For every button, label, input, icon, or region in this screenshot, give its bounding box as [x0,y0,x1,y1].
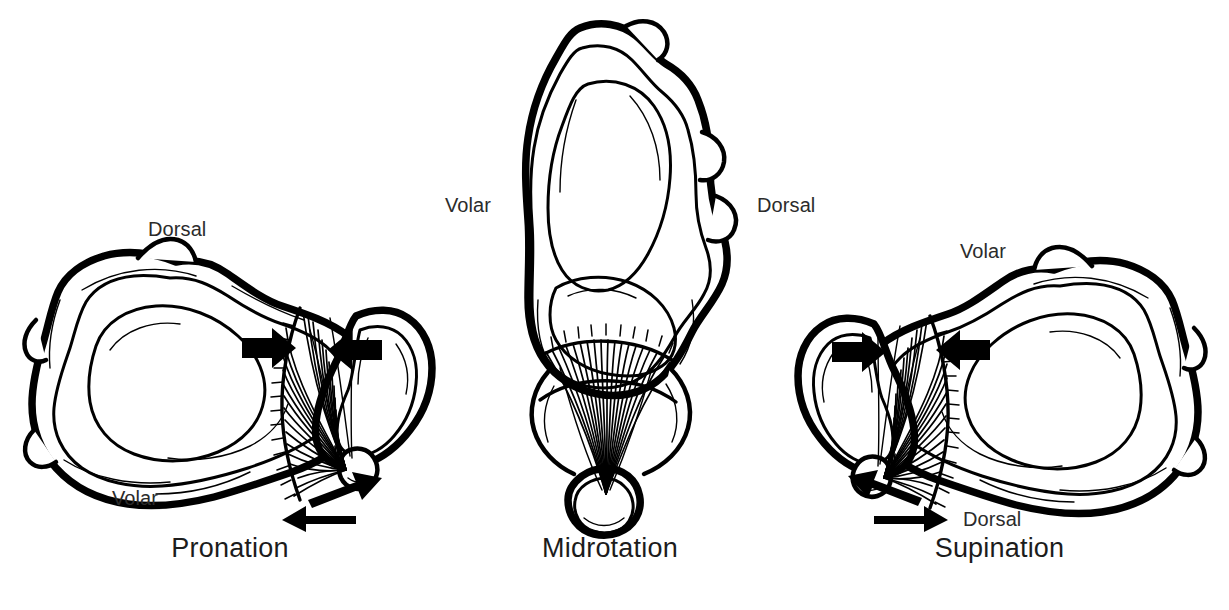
translation-arrow-forward [874,506,948,532]
panel-supination: Volar Dorsal Supination [770,0,1229,610]
figure-bottom-caption [118,596,818,610]
label-pronation-dorsal: Dorsal [148,218,206,241]
figure-root: Dorsal Volar Pronation [0,0,1229,610]
caption-supination: Supination [770,533,1229,564]
label-midrotation-volar: Volar [445,194,491,217]
pronation-illustration [0,0,460,545]
panel-pronation: Dorsal Volar Pronation [0,0,460,610]
caption-pronation: Pronation [0,533,460,564]
label-supination-dorsal: Dorsal [963,508,1021,531]
supination-illustration [770,0,1229,545]
label-supination-volar: Volar [960,240,1006,263]
midrotation-illustration [420,0,800,545]
translation-arrow-back [282,506,356,532]
panel-midrotation: Volar Dorsal Midrotation [420,0,800,610]
label-pronation-volar: Volar [112,487,158,510]
caption-midrotation: Midrotation [420,533,800,564]
